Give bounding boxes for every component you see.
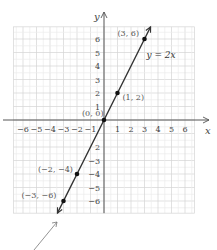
svg-text:(1, 2): (1, 2) (123, 93, 145, 102)
plotted-points: (3, 6)(1, 2)(0, 0)(−2, −4)(−3, −6) (22, 29, 147, 203)
svg-text:y = 2x: y = 2x (146, 50, 176, 60)
axes: xy (3, 11, 211, 213)
svg-text:(0, 0): (0, 0) (82, 109, 104, 118)
svg-text:4: 4 (155, 125, 160, 134)
svg-text:−4: −4 (88, 170, 100, 179)
svg-text:6: 6 (95, 35, 100, 44)
svg-text:−3: −3 (58, 125, 70, 134)
svg-text:5: 5 (169, 125, 174, 134)
svg-text:−2: −2 (71, 125, 83, 134)
svg-text:(−2, −4): (−2, −4) (38, 165, 73, 174)
svg-text:3: 3 (95, 76, 100, 85)
svg-text:−6: −6 (88, 197, 100, 206)
svg-text:x: x (205, 125, 211, 136)
svg-text:(3, 6): (3, 6) (118, 29, 140, 38)
svg-text:3: 3 (142, 125, 147, 134)
svg-text:−3: −3 (88, 157, 100, 166)
svg-text:y: y (93, 11, 100, 22)
svg-text:−4: −4 (44, 125, 56, 134)
svg-text:5: 5 (95, 49, 100, 58)
svg-text:2: 2 (95, 89, 100, 98)
svg-text:4: 4 (95, 62, 100, 71)
svg-text:−5: −5 (31, 125, 43, 134)
svg-text:1: 1 (115, 125, 120, 134)
svg-text:2: 2 (95, 143, 100, 152)
svg-text:6: 6 (182, 125, 187, 134)
svg-text:(−3, −6): (−3, −6) (22, 191, 57, 200)
svg-text:−1: −1 (85, 125, 97, 134)
svg-text:−6: −6 (17, 125, 29, 134)
svg-text:−5: −5 (88, 184, 100, 193)
coordinate-plane-chart: xy −6−5−4−3−2−11234561234562−3−4−5−6 y =… (0, 0, 217, 250)
svg-text:2: 2 (128, 125, 133, 134)
pointer-arrow (34, 222, 57, 250)
